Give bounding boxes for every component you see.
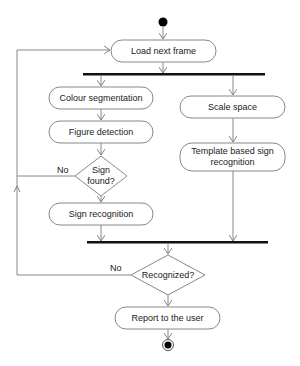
decision-sign-found-line1: Sign — [92, 165, 110, 175]
node-figure-detection: Figure detection — [49, 121, 153, 143]
node-load-next-frame: Load next frame — [111, 40, 216, 62]
node-scale-space: Scale space — [180, 96, 285, 118]
node-figure-label: Figure detection — [69, 127, 134, 137]
node-report-label: Report to the user — [131, 313, 203, 323]
node-sign-recognition: Sign recognition — [49, 203, 153, 225]
decision-recognized: Recognized? — [131, 255, 205, 295]
activity-diagram: Load next frame Colour segmentation Figu… — [0, 0, 300, 366]
fork-bar — [83, 73, 265, 76]
node-template-recognition: Template based sign recognition — [180, 143, 285, 171]
decision-sign-found: Sign found? — [75, 156, 127, 196]
node-load-label: Load next frame — [131, 46, 196, 56]
node-colour-label: Colour segmentation — [59, 93, 142, 103]
node-template-line1: Template based sign — [191, 146, 274, 156]
node-report-user: Report to the user — [115, 307, 220, 329]
node-sign-recognition-label: Sign recognition — [69, 209, 134, 219]
join-bar — [87, 241, 268, 244]
decision-sign-found-line2: found? — [87, 176, 115, 186]
start-node — [159, 18, 168, 27]
label-no-sign-found: No — [57, 165, 69, 175]
node-scale-label: Scale space — [208, 102, 257, 112]
node-colour-segmentation: Colour segmentation — [49, 87, 153, 109]
node-template-line2: recognition — [210, 157, 254, 167]
end-node — [163, 340, 174, 351]
decision-recognized-label: Recognized? — [142, 270, 195, 280]
label-no-recognized: No — [110, 263, 122, 273]
